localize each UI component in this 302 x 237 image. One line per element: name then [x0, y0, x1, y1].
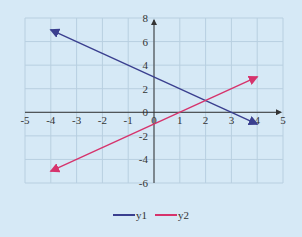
svg-text:-6: -6 [139, 177, 149, 189]
axes [25, 20, 281, 183]
svg-text:-5: -5 [20, 114, 30, 126]
svg-text:4: 4 [143, 59, 149, 71]
legend: y1 y2 [0, 209, 302, 221]
svg-text:1: 1 [177, 114, 183, 126]
svg-text:8: 8 [143, 12, 149, 24]
legend-label: y2 [178, 209, 189, 221]
svg-text:-4: -4 [46, 114, 56, 126]
legend-swatch-icon [155, 214, 177, 216]
svg-text:2: 2 [143, 83, 149, 95]
svg-text:4: 4 [254, 114, 260, 126]
legend-swatch-icon [113, 214, 135, 216]
svg-text:-2: -2 [98, 114, 107, 126]
svg-text:2: 2 [203, 114, 209, 126]
chart-plot: -5-4-3-2-1012345-6-4-202468 [0, 0, 302, 200]
legend-item-y1: y1 [113, 209, 147, 221]
svg-text:0: 0 [143, 106, 149, 118]
svg-text:-3: -3 [72, 114, 82, 126]
legend-item-y2: y2 [155, 209, 189, 221]
svg-text:6: 6 [143, 36, 149, 48]
svg-text:-1: -1 [124, 114, 133, 126]
svg-text:-2: -2 [139, 130, 148, 142]
legend-label: y1 [136, 209, 147, 221]
svg-text:-4: -4 [139, 153, 149, 165]
svg-text:3: 3 [229, 114, 235, 126]
tick-labels: -5-4-3-2-1012345-6-4-202468 [20, 12, 286, 189]
svg-text:5: 5 [280, 114, 286, 126]
